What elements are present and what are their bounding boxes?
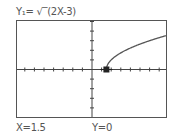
trace-x-readout: X=1.5: [16, 122, 46, 134]
graph-area: [0, 0, 176, 139]
trace-y-readout: Y=0: [92, 122, 112, 134]
trace-cursor: [100, 67, 112, 73]
function-curve: [106, 36, 166, 70]
